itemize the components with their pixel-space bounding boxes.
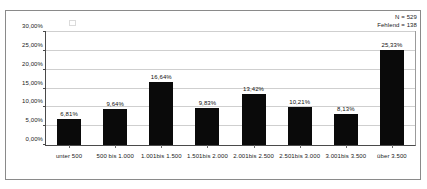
x-axis-tick-mark — [254, 145, 255, 148]
bar-slot: 9,64%500 bis 1.000 — [92, 32, 138, 145]
y-axis-tick-label: 5,00% — [25, 117, 43, 123]
x-axis-tick-mark — [161, 145, 162, 148]
y-axis-tick-label: 25,00% — [22, 42, 43, 48]
bar-slot: 13,42%2.001bis 2.500 — [231, 32, 277, 145]
y-axis-tick-label: 20,00% — [22, 61, 43, 67]
bar[interactable] — [334, 114, 358, 145]
x-axis-tick-mark — [115, 145, 116, 148]
bar-value-label: 10,21% — [289, 99, 310, 105]
x-axis-tick-mark — [346, 145, 347, 148]
bar-value-label: 13,42% — [243, 86, 264, 92]
plot-wrapper: 0,00%5,00%10,00%15,00%20,00%25,00%30,00%… — [6, 11, 420, 179]
bar-slot: 6,81%unter 500 — [46, 32, 92, 145]
chart-frame: N = 529 Fehlend = 138 0,00%5,00%10,00%15… — [5, 10, 421, 180]
bar-value-label: 8,13% — [337, 106, 355, 112]
x-axis-tick-label: 1.501bis 2.000 — [187, 153, 228, 159]
bar-value-label: 9,83% — [199, 100, 217, 106]
bar[interactable] — [103, 109, 127, 145]
bar-slot: 16,64%1.001bis 1.500 — [138, 32, 184, 145]
x-axis-tick-label: 2.501bis 3.000 — [279, 153, 320, 159]
y-axis-tick-label: 30,00% — [22, 23, 43, 29]
y-axis-tick-label: 15,00% — [22, 80, 43, 86]
bar[interactable] — [288, 107, 312, 145]
x-axis-tick-mark — [392, 145, 393, 148]
y-axis-tick-label: 0,00% — [25, 136, 43, 142]
x-axis-tick-label: über 3.500 — [377, 153, 407, 159]
bar-value-label: 9,64% — [106, 101, 124, 107]
bar-slot: 25,33%über 3.500 — [369, 32, 415, 145]
bar-value-label: 16,64% — [151, 74, 172, 80]
bar-slot: 8,13%3.001bis 3.500 — [323, 32, 369, 145]
x-axis-tick-label: 500 bis 1.000 — [97, 153, 134, 159]
x-axis-tick-mark — [300, 145, 301, 148]
x-axis-tick-label: 1.001bis 1.500 — [141, 153, 182, 159]
bar[interactable] — [242, 94, 266, 145]
bar[interactable] — [149, 82, 173, 145]
plot-area: 0,00%5,00%10,00%15,00%20,00%25,00%30,00%… — [45, 31, 416, 146]
x-axis-tick-label: unter 500 — [56, 153, 82, 159]
x-axis-tick-mark — [69, 145, 70, 148]
bar-slot: 9,83%1.501bis 2.000 — [184, 32, 230, 145]
bar-value-label: 25,33% — [381, 42, 402, 48]
bar-value-label: 6,81% — [60, 111, 78, 117]
x-axis-tick-label: 2.001bis 2.500 — [233, 153, 274, 159]
y-axis-tick-label: 10,00% — [22, 98, 43, 104]
x-axis-tick-mark — [207, 145, 208, 148]
bar[interactable] — [380, 50, 404, 145]
bar[interactable] — [57, 119, 81, 145]
bar[interactable] — [195, 108, 219, 145]
bar-slot: 10,21%2.501bis 3.000 — [277, 32, 323, 145]
x-axis-tick-label: 3.001bis 3.500 — [325, 153, 366, 159]
